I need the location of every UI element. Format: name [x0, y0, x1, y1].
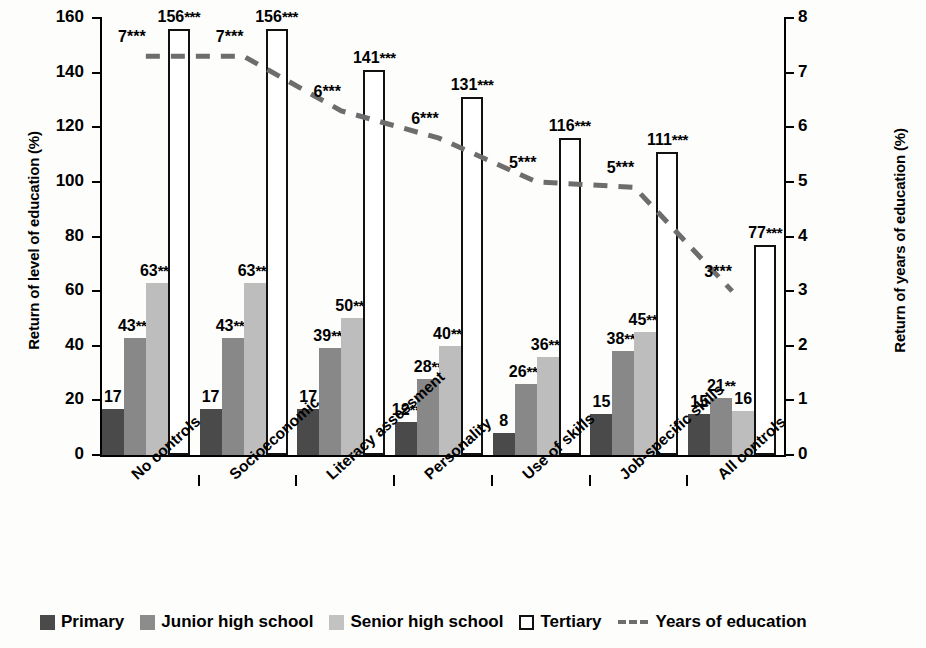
legend-item[interactable]: Years of education: [618, 612, 807, 632]
y-axis-right-title: Return of years of education (%): [891, 56, 908, 426]
y-tick-left: [92, 290, 101, 292]
y-tick-label-left: 120: [38, 116, 84, 136]
line-value-label: 6***: [411, 110, 439, 128]
y-tick-label-right: 8: [798, 7, 838, 27]
legend-label: Years of education: [656, 612, 807, 632]
y-tick-label-right: 5: [798, 171, 838, 191]
y-tick-label-left: 60: [38, 280, 84, 300]
y-tick-label-left: 100: [38, 171, 84, 191]
y-tick-left: [92, 181, 101, 183]
x-tick: [393, 475, 395, 486]
y-tick-right: [785, 126, 794, 128]
x-tick: [589, 475, 591, 486]
line-value-label: 3***: [704, 263, 732, 281]
y-tick-right: [785, 345, 794, 347]
y-tick-label-left: 80: [38, 226, 84, 246]
y-tick-label-right: 6: [798, 116, 838, 136]
legend-label: Tertiary: [540, 612, 601, 632]
y-tick-right: [785, 236, 794, 238]
y-tick-left: [92, 345, 101, 347]
y-tick-label-left: 40: [38, 335, 84, 355]
x-tick: [295, 475, 297, 486]
y-tick-label-left: 20: [38, 389, 84, 409]
years-of-education-polyline: [146, 56, 732, 291]
line-value-label: 5***: [509, 154, 537, 172]
chart-figure: Return of level of education (%) Return …: [0, 0, 926, 648]
plot-area: 020406080100120140160 012345678 1743***6…: [101, 18, 785, 455]
y-tick-label-left: 140: [38, 62, 84, 82]
chart-legend: PrimaryJunior high schoolSenior high sch…: [40, 612, 816, 632]
y-tick-label-right: 1: [798, 389, 838, 409]
line-value-label: 7***: [118, 28, 146, 46]
y-tick-right: [785, 454, 794, 456]
legend-swatch-primary: [40, 615, 55, 630]
y-tick-right: [785, 72, 794, 74]
legend-swatch-tertiary: [519, 615, 534, 630]
y-tick-left: [92, 126, 101, 128]
legend-label: Senior high school: [350, 612, 503, 632]
y-tick-right: [785, 181, 794, 183]
legend-item[interactable]: Tertiary: [519, 612, 601, 632]
y-tick-left: [92, 236, 101, 238]
y-tick-right: [785, 399, 794, 401]
y-tick-left: [92, 72, 101, 74]
legend-item[interactable]: Senior high school: [329, 612, 503, 632]
x-tick: [198, 475, 200, 486]
y-tick-left: [92, 454, 101, 456]
y-tick-left: [92, 399, 101, 401]
dashed-line-icon: [618, 620, 648, 624]
legend-item[interactable]: Primary: [40, 612, 124, 632]
legend-label: Primary: [61, 612, 124, 632]
line-value-label: 5***: [607, 159, 635, 177]
y-tick-right: [785, 17, 794, 19]
y-tick-label-right: 4: [798, 226, 838, 246]
y-tick-left: [92, 17, 101, 19]
y-tick-label-right: 0: [798, 444, 838, 464]
legend-label: Junior high school: [161, 612, 313, 632]
x-tick: [686, 475, 688, 486]
y-tick-label-right: 2: [798, 335, 838, 355]
y-tick-label-left: 160: [38, 7, 84, 27]
legend-swatch-senior: [329, 615, 344, 630]
y-tick-label-right: 3: [798, 280, 838, 300]
years-of-education-line: [101, 18, 785, 455]
legend-item[interactable]: Junior high school: [140, 612, 313, 632]
y-tick-right: [785, 290, 794, 292]
y-tick-label-right: 7: [798, 62, 838, 82]
legend-swatch-junior: [140, 615, 155, 630]
line-value-label: 6***: [313, 83, 341, 101]
x-tick: [491, 475, 493, 486]
line-value-label: 7***: [216, 28, 244, 46]
y-tick-label-left: 0: [38, 444, 84, 464]
